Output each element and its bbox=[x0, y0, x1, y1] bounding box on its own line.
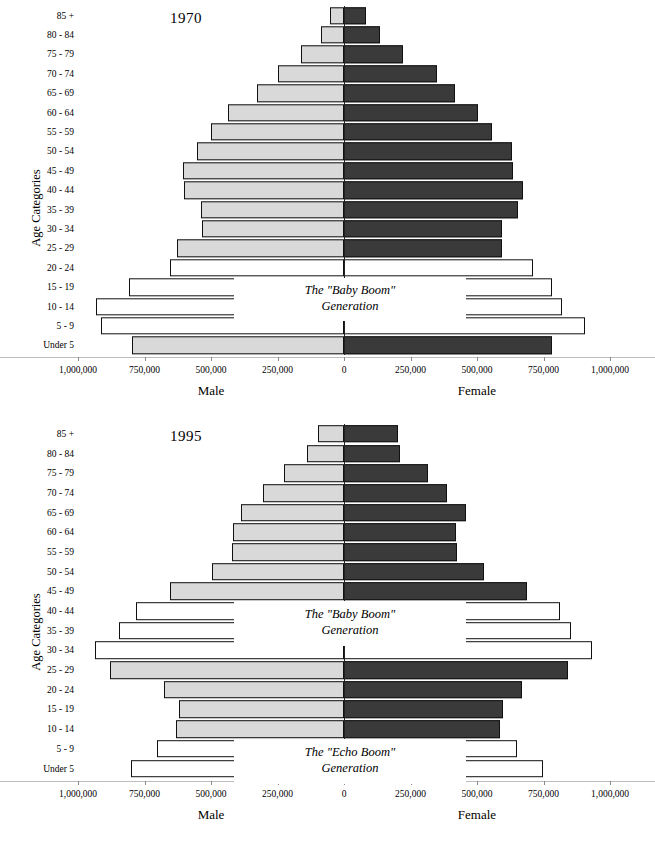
x-axis-tick-label: 750,000 bbox=[528, 789, 559, 799]
annotation-line-1: The "Baby Boom" bbox=[240, 283, 460, 299]
age-category-label: 30 - 34 bbox=[12, 224, 74, 234]
x-axis-tick bbox=[344, 357, 345, 361]
bar-male bbox=[110, 661, 344, 679]
age-label-wrap: 30 - 34 bbox=[0, 219, 74, 238]
age-label-wrap: 20 - 24 bbox=[0, 680, 74, 700]
bar-male bbox=[197, 143, 344, 160]
age-row: 15 - 19 bbox=[0, 700, 655, 720]
age-category-label: 30 - 34 bbox=[12, 645, 74, 655]
age-row: 25 - 29 bbox=[0, 239, 655, 258]
bar-male bbox=[318, 425, 344, 443]
age-row: 50 - 54 bbox=[0, 142, 655, 161]
bar-male bbox=[177, 240, 344, 257]
x-axis-tick bbox=[610, 781, 611, 785]
age-category-label: 40 - 44 bbox=[12, 185, 74, 195]
bar-female bbox=[344, 65, 437, 82]
age-label-wrap: 55 - 59 bbox=[0, 122, 74, 141]
age-row: 50 - 54 bbox=[0, 562, 655, 582]
age-label-wrap: 50 - 54 bbox=[0, 142, 74, 161]
bar-female bbox=[344, 240, 502, 257]
bar-male bbox=[201, 201, 344, 218]
age-row: 85 + bbox=[0, 424, 655, 444]
bar-female bbox=[344, 720, 500, 738]
bar-male bbox=[170, 583, 344, 601]
age-label-wrap: 50 - 54 bbox=[0, 562, 74, 582]
age-label-wrap: 45 - 49 bbox=[0, 161, 74, 180]
age-label-wrap: Under 5 bbox=[0, 336, 74, 355]
age-category-label: Under 5 bbox=[12, 764, 74, 774]
age-category-label: 80 - 84 bbox=[12, 449, 74, 459]
annotation-line-2: Generation bbox=[240, 299, 460, 315]
bar-male bbox=[257, 85, 344, 102]
age-category-label: 15 - 19 bbox=[12, 282, 74, 292]
x-axis-tick bbox=[211, 357, 212, 361]
age-row: 60 - 64 bbox=[0, 522, 655, 542]
bar-male bbox=[301, 46, 344, 63]
age-category-label: Under 5 bbox=[12, 340, 74, 350]
x-axis-tick bbox=[78, 781, 79, 785]
age-label-wrap: 80 - 84 bbox=[0, 25, 74, 44]
age-row: 25 - 29 bbox=[0, 660, 655, 680]
age-label-wrap: 40 - 44 bbox=[0, 181, 74, 200]
age-category-label: 70 - 74 bbox=[12, 488, 74, 498]
age-row: 80 - 84 bbox=[0, 25, 655, 44]
age-category-label: 10 - 14 bbox=[12, 302, 74, 312]
age-label-wrap: 5 - 9 bbox=[0, 316, 74, 335]
bar-male bbox=[170, 259, 344, 276]
x-axis-tick bbox=[544, 357, 545, 361]
annotation-line-1: The "Baby Boom" bbox=[240, 607, 460, 623]
bar-male bbox=[212, 563, 344, 581]
age-row: 45 - 49 bbox=[0, 582, 655, 602]
x-axis-tick-label: 750,000 bbox=[528, 365, 559, 375]
bar-male bbox=[183, 162, 344, 179]
x-axis-tick-label: 1,000,000 bbox=[59, 365, 97, 375]
x-axis-tick-label: 250,000 bbox=[395, 789, 426, 799]
bar-male bbox=[307, 445, 344, 463]
annotation-baby-boom: The "Baby Boom"Generation bbox=[234, 278, 466, 322]
age-label-wrap: 35 - 39 bbox=[0, 200, 74, 219]
age-label-wrap: 40 - 44 bbox=[0, 601, 74, 621]
age-label-wrap: 15 - 19 bbox=[0, 277, 74, 296]
bar-female bbox=[344, 104, 478, 121]
x-axis-tick-label: 750,000 bbox=[129, 365, 160, 375]
age-row: 55 - 59 bbox=[0, 122, 655, 141]
bar-female bbox=[344, 7, 366, 24]
bar-female bbox=[344, 143, 512, 160]
x-axis-tick bbox=[477, 357, 478, 361]
age-category-label: 65 - 69 bbox=[12, 508, 74, 518]
x-axis-tick bbox=[411, 357, 412, 361]
bar-male bbox=[330, 7, 344, 24]
age-row: 35 - 39 bbox=[0, 200, 655, 219]
annotation-line-1: The "Echo Boom" bbox=[240, 745, 460, 761]
bar-female bbox=[344, 123, 492, 140]
bar-male bbox=[132, 337, 344, 354]
age-label-wrap: 20 - 24 bbox=[0, 258, 74, 277]
age-label-wrap: 75 - 79 bbox=[0, 463, 74, 483]
age-category-label: 35 - 39 bbox=[12, 626, 74, 636]
age-category-label: 5 - 9 bbox=[12, 321, 74, 331]
annotation-echo-boom: The "Echo Boom"Generation bbox=[234, 739, 466, 783]
age-row: 70 - 74 bbox=[0, 483, 655, 503]
bar-female bbox=[344, 182, 523, 199]
age-row: 45 - 49 bbox=[0, 161, 655, 180]
age-category-label: 5 - 9 bbox=[12, 744, 74, 754]
x-axis-tick bbox=[145, 357, 146, 361]
x-axis-tick bbox=[278, 357, 279, 361]
x-axis-tick-label: 0 bbox=[342, 789, 347, 799]
age-category-label: 45 - 49 bbox=[12, 166, 74, 176]
x-axis-tick-label: 1,000,000 bbox=[591, 789, 629, 799]
age-category-label: 55 - 59 bbox=[12, 127, 74, 137]
bar-female bbox=[344, 681, 522, 699]
age-row: 65 - 69 bbox=[0, 84, 655, 103]
x-axis-tick-label: 500,000 bbox=[462, 365, 493, 375]
bar-male bbox=[202, 220, 344, 237]
age-category-label: 55 - 59 bbox=[12, 547, 74, 557]
age-category-label: 60 - 64 bbox=[12, 527, 74, 537]
age-label-wrap: 45 - 49 bbox=[0, 582, 74, 602]
age-label-wrap: 15 - 19 bbox=[0, 700, 74, 720]
age-label-wrap: 80 - 84 bbox=[0, 444, 74, 464]
age-category-label: 60 - 64 bbox=[12, 108, 74, 118]
age-row: 20 - 24 bbox=[0, 258, 655, 277]
x-axis-tick-label: 500,000 bbox=[196, 365, 227, 375]
x-axis-tick bbox=[477, 781, 478, 785]
